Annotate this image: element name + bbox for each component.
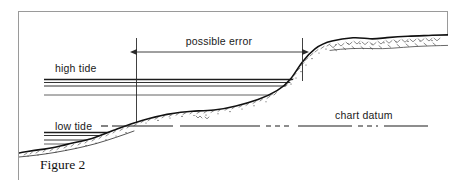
- coastal-profile-diagram: high tide low tide chart datum possible …: [0, 0, 466, 192]
- figure-2-coastal-profile: high tide low tide chart datum possible …: [0, 0, 466, 192]
- chart-datum-label: chart datum: [335, 109, 393, 121]
- possible-error-label: possible error: [186, 35, 253, 47]
- figure-caption: Figure 2: [40, 157, 85, 172]
- high-tide-label: high tide: [55, 62, 97, 74]
- high-tide-water-lines: [44, 80, 300, 96]
- low-tide-label: low tide: [55, 120, 92, 132]
